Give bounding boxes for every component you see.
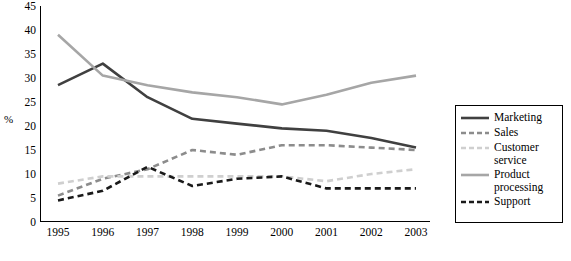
x-tick-label: 2002 [360,226,383,238]
legend-swatch-icon [460,112,490,124]
y-tick-label: 45 [6,0,36,12]
x-tick-label: 1999 [226,226,249,238]
plot-area [40,6,430,222]
legend-label: Marketing [490,111,542,124]
x-tick-label: 2003 [405,226,428,238]
legend-swatch-icon [460,196,490,208]
legend-item[interactable]: Marketing [460,111,558,124]
legend-label: Product processing [490,168,558,193]
x-tick-label: 1996 [91,226,114,238]
y-tick-label: 30 [6,72,36,84]
chart-root: % 051015202530354045 1995199619971998199… [0,0,571,261]
y-tick-label: 35 [6,48,36,60]
legend-item[interactable]: Support [460,195,558,208]
y-tick-label: 10 [6,168,36,180]
x-tick-label: 1995 [47,226,70,238]
y-tick-label: 15 [6,144,36,156]
legend-swatch-icon [460,142,490,154]
x-tick-label: 1997 [136,226,159,238]
y-tick-label: 25 [6,96,36,108]
series-line [58,169,416,183]
y-tick-label: 5 [6,192,36,204]
x-tick-label: 2001 [315,226,338,238]
y-tick-label: 20 [6,120,36,132]
legend-item[interactable]: Product processing [460,168,558,193]
legend-label: Sales [490,126,518,139]
series-line [58,167,416,201]
series-line [58,145,416,195]
y-tick-label: 40 [6,24,36,36]
legend-item[interactable]: Sales [460,126,558,139]
y-tick-label: 0 [6,216,36,228]
legend: MarketingSalesCustomer serviceProduct pr… [455,105,563,223]
x-tick-label: 1998 [181,226,204,238]
legend-item[interactable]: Customer service [460,141,558,166]
series-lines [40,6,430,222]
x-tick-label: 2000 [270,226,293,238]
legend-swatch-icon [460,169,490,181]
legend-label: Customer service [490,141,558,166]
y-axis-ticks: 051015202530354045 [0,6,36,222]
legend-swatch-icon [460,127,490,139]
legend-label: Support [490,195,530,208]
